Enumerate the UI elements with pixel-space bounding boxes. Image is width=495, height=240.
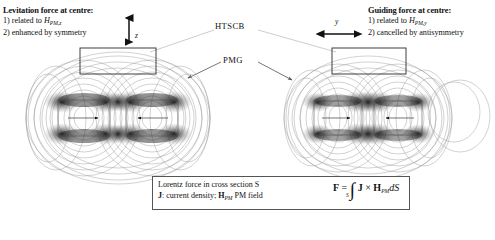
lorentz-force-text: Lorentz force in cross section S J: curr… (158, 180, 263, 203)
integral-limit: S (346, 192, 349, 198)
antisymmetric-field-plot (276, 46, 476, 186)
eq-pm-field-subscript: PM (381, 188, 389, 194)
lorentz-line2: J: current density; HPM PM field (158, 191, 263, 203)
eq-differential: dS (389, 182, 399, 193)
lorentz-line1: Lorentz force in cross section S (158, 180, 263, 191)
cross-product-sign: × (363, 182, 374, 193)
lorentz-force-box: Lorentz force in cross section S J: curr… (152, 176, 410, 210)
lorentz-equation: F = ∫SJ × HPMdS (333, 182, 399, 194)
integral-sign: ∫ (350, 179, 355, 200)
antisymmetric-field-svg (276, 46, 476, 186)
lorentz-line2-mid: : current density; (162, 191, 218, 200)
symmetric-field-plot (18, 46, 218, 186)
lorentz-line2-tail: PM field (233, 191, 263, 200)
symmetric-field-svg (18, 46, 218, 186)
eq-pm-field: H (373, 182, 381, 193)
pm-field-subscript: PM (224, 194, 232, 200)
